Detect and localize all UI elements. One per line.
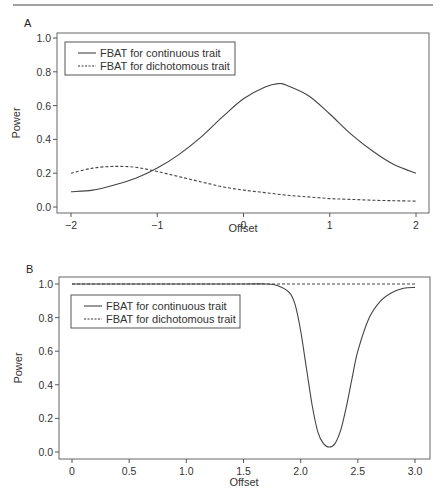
plot-b-legend: FBAT for continuous trait FBAT for dicho…: [71, 295, 240, 328]
x-tick-label: −2: [65, 219, 77, 231]
plot-a-legend: FBAT for continuous trait FBAT for dicho…: [65, 42, 235, 75]
x-tick-label: 2: [413, 219, 419, 231]
x-tick-label: 0.5: [122, 465, 137, 477]
legend-dichotomous-label: FBAT for dichotomous trait: [106, 313, 236, 325]
plot-b-x-label: Offset: [229, 476, 258, 488]
plot-b-y-axis: 0.00.20.40.60.81.0: [38, 278, 59, 458]
x-tick-label: 1.0: [179, 465, 194, 477]
x-tick-label: 2.5: [351, 465, 366, 477]
plot-a-y-label: Power: [10, 107, 22, 139]
y-tick-label: 0.8: [36, 66, 51, 78]
y-tick-label: 0.2: [38, 412, 53, 424]
panel-a-chart: 0.00.20.40.60.81.0 −2−1012 FBAT for cont…: [10, 32, 429, 234]
y-tick-label: 1.0: [38, 278, 53, 290]
x-tick-label: 0: [69, 465, 75, 477]
legend-continuous-label: FBAT for continuous trait: [100, 47, 221, 59]
plot-a-line-continuous: [71, 83, 416, 191]
y-tick-label: 0.0: [38, 446, 53, 458]
panel-a-label: A: [24, 17, 32, 29]
figure: A 0.00.20.40.60.81.0 −2−1012 FBAT for co…: [0, 0, 447, 502]
y-tick-label: 0.4: [36, 133, 51, 145]
plot-a-x-label: Offset: [228, 222, 257, 234]
y-tick-label: 0.6: [36, 100, 51, 112]
legend-continuous-label: FBAT for continuous trait: [106, 300, 227, 312]
y-tick-label: 0.8: [38, 312, 53, 324]
plot-b-y-label: Power: [12, 352, 24, 384]
x-tick-label: 2.0: [293, 465, 308, 477]
y-tick-label: 1.0: [36, 32, 51, 44]
legend-dichotomous-label: FBAT for dichotomous trait: [100, 60, 230, 72]
plot-a-line-dichotomous: [71, 166, 416, 201]
x-tick-label: 1: [327, 219, 333, 231]
panel-b-label: B: [26, 263, 33, 275]
x-tick-label: −1: [151, 219, 163, 231]
y-tick-label: 0.0: [36, 201, 51, 213]
plot-a-y-axis: 0.00.20.40.60.81.0: [36, 32, 57, 213]
panel-b-chart: 0.00.20.40.60.81.0 00.51.01.52.02.53.0 F…: [12, 277, 430, 488]
x-tick-label: 3.0: [408, 465, 423, 477]
y-tick-label: 0.6: [38, 345, 53, 357]
plot-b-x-axis: 00.51.01.52.02.53.0: [69, 459, 422, 477]
y-tick-label: 0.4: [38, 379, 53, 391]
y-tick-label: 0.2: [36, 167, 51, 179]
